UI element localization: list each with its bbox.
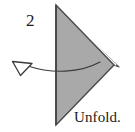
step-number-label: 2	[26, 12, 35, 29]
figure-caption: Unfold.	[74, 110, 121, 125]
origami-step-figure: 2 Unfold.	[0, 0, 135, 132]
